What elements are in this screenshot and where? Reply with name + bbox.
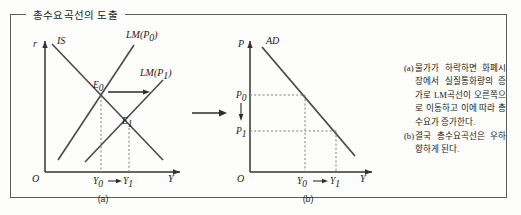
panel-a-axes: [42, 41, 180, 175]
curve-lm1-label: LM(P1): [139, 67, 172, 81]
svg-text:P0: P0: [235, 90, 247, 103]
note-text-b: 결국 총수요곡선은 우하향하게 된다.: [415, 130, 506, 157]
panel-b-y-axis-label: P: [237, 38, 244, 49]
panel-a-x-axis-label: Y: [168, 173, 175, 184]
panel-b-caption: (b): [303, 194, 314, 204]
note-marker-b: (b): [404, 130, 414, 143]
panel-b-price-arrow: [239, 103, 244, 121]
panel-b-xtick-arrow: [313, 179, 328, 184]
curve-is-label: IS: [56, 35, 65, 46]
curve-ad-label: AD: [265, 35, 280, 46]
panel-b-ytick-p0: P0: [235, 90, 305, 103]
panel-b-x-axis-label: Y: [360, 173, 367, 184]
figure-title: 총수요곡선의 도출: [26, 7, 125, 22]
note-item-a: (a) 물가가 하락하면 화폐시장에서 실질통화량의 증가로 LM곡선이 오른쪽…: [404, 62, 506, 129]
svg-text:P1: P1: [235, 126, 247, 139]
svg-text:LM(P1): LM(P1): [139, 67, 172, 81]
svg-text:E0: E0: [92, 80, 104, 93]
panel-a-xtick-arrow: [108, 179, 122, 184]
panel-a-y-axis-label: r: [33, 38, 37, 49]
panel-b-xtick-y1: Y1: [330, 176, 340, 189]
panel-a-xtick-y1: Y1: [123, 176, 133, 189]
panel-a-origin-label: O: [32, 173, 39, 184]
panel-a-xtick-y0: Y0: [93, 176, 103, 189]
explanation-notes: (a) 물가가 하락하면 화폐시장에서 실질통화량의 증가로 LM곡선이 오른쪽…: [404, 62, 506, 158]
note-text-a: 물가가 하락하면 화폐시장에서 실질통화량의 증가로 LM곡선이 오른쪽으로 이…: [415, 62, 506, 129]
connector-arrow: [192, 110, 227, 117]
curve-lm0-label: LM(P0): [125, 29, 158, 43]
svg-text:E1: E1: [121, 116, 133, 129]
panel-b-xtick-y0: Y0: [297, 176, 307, 189]
curve-ad: [262, 47, 355, 156]
figure-root: 총수요곡선의 도출 r Y O IS LM(P0) LM(P1): [0, 0, 521, 215]
note-item-b: (b) 결국 총수요곡선은 우하향하게 된다.: [404, 130, 506, 157]
note-marker-a: (a): [404, 62, 414, 75]
panel-a-shift-arrow: [108, 89, 150, 94]
svg-text:LM(P0): LM(P0): [125, 29, 158, 43]
point-e1: E1: [121, 116, 133, 172]
panel-a-caption: (a): [98, 194, 109, 204]
panel-b-origin-label: O: [237, 173, 244, 184]
